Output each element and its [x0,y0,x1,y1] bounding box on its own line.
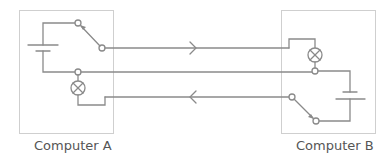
junction-b-icon [312,68,318,74]
battery-a-icon [28,23,75,72]
switch-b-icon [289,94,319,124]
computer-a-label: Computer A [34,138,112,153]
circuit-diagram [0,0,392,160]
wire-a-to-b-top [105,42,289,54]
computer-b-label: Computer B [296,138,374,153]
lamp-b-icon [289,39,322,68]
junction-a-icon [75,69,81,75]
lamp-a-icon [71,75,105,105]
switch-a-icon [75,20,105,51]
battery-b-icon [318,71,365,121]
wire-b-to-a-bottom [105,91,289,103]
